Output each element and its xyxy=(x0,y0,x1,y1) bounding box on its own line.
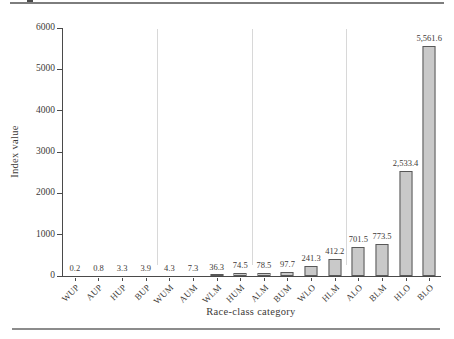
bar-wlm xyxy=(210,274,223,276)
category-label: WUP xyxy=(60,283,81,304)
x-axis-tick xyxy=(287,278,288,281)
bar-slot-wum: 4.3WUM xyxy=(158,28,182,276)
x-axis-tick xyxy=(240,278,241,281)
bar-slot-wlo: 241.3WLO xyxy=(299,28,323,276)
x-axis-tick xyxy=(146,278,147,281)
category-label: WLO xyxy=(296,283,317,304)
bar-slot-bum: 97.7BUM xyxy=(276,28,300,276)
x-axis-tick xyxy=(122,278,123,281)
y-axis-tick-label: 1000 xyxy=(11,230,55,240)
y-axis-tick-label: 2000 xyxy=(11,189,55,199)
y-axis-tick-label: 3000 xyxy=(11,147,55,157)
book-figure: Index value 01000200030004000500060000.2… xyxy=(0,0,454,339)
bar-slot-alo: 701.5ALO xyxy=(347,28,371,276)
bar-value-label: 74.5 xyxy=(233,261,248,270)
bar-value-label: 773.5 xyxy=(372,232,391,241)
bar-value-label: 3.3 xyxy=(117,264,128,273)
bar-hlm xyxy=(328,259,341,276)
bar-slot-wup: 0.2WUP xyxy=(63,28,87,276)
bar-bum xyxy=(281,272,294,276)
category-label: WUM xyxy=(153,283,176,306)
x-axis-tick xyxy=(264,278,265,281)
bar-alm xyxy=(257,273,270,276)
bar-slot-hum: 74.5HUM xyxy=(228,28,252,276)
category-label: HUM xyxy=(225,283,247,305)
bar-slot-aup: 0.8AUP xyxy=(87,28,111,276)
x-axis-tick xyxy=(382,278,383,281)
bar-slots: 0.2WUP0.8AUP3.3HUP3.9BUP4.3WUM7.3AUM36.3… xyxy=(63,28,441,276)
cropped-text-fragment xyxy=(27,0,33,2)
bar-value-label: 412.2 xyxy=(325,247,344,256)
bar-value-label: 701.5 xyxy=(349,235,368,244)
bar-value-label: 0.2 xyxy=(70,264,81,273)
bar-value-label: 97.7 xyxy=(280,260,295,269)
x-axis-title: Race-class category xyxy=(62,306,440,317)
bar-slot-aum: 7.3AUM xyxy=(181,28,205,276)
bar-blm xyxy=(375,244,388,276)
y-axis-tick-label: 5000 xyxy=(11,65,55,75)
x-axis-tick xyxy=(406,278,407,281)
bar-value-label: 5,561.6 xyxy=(416,34,442,43)
bar-hlo xyxy=(399,171,412,276)
bar-slot-hlo: 2,533.4HLO xyxy=(394,28,418,276)
bar-wlo xyxy=(305,266,318,276)
category-label: BLO xyxy=(416,283,436,303)
bar-value-label: 241.3 xyxy=(302,254,321,263)
category-label: WLM xyxy=(201,283,223,305)
category-label: HUP xyxy=(109,283,129,303)
category-label: BUM xyxy=(273,283,294,304)
x-axis-tick xyxy=(358,278,359,281)
x-axis-tick xyxy=(311,278,312,281)
bar-slot-blo: 5,561.6BLO xyxy=(417,28,441,276)
bar-slot-bup: 3.9BUP xyxy=(134,28,158,276)
x-axis-tick xyxy=(193,278,194,281)
bar-slot-alm: 78.5ALM xyxy=(252,28,276,276)
bar-value-label: 7.3 xyxy=(188,264,199,273)
bar-alo xyxy=(352,247,365,276)
bar-value-label: 4.3 xyxy=(164,264,175,273)
category-label: BLM xyxy=(368,283,389,304)
x-axis-tick xyxy=(169,278,170,281)
x-axis-tick xyxy=(429,278,430,281)
x-axis-tick xyxy=(98,278,99,281)
bar-slot-wlm: 36.3WLM xyxy=(205,28,229,276)
bar-slot-hlm: 412.2HLM xyxy=(323,28,347,276)
category-label: BUP xyxy=(133,283,152,302)
bar-slot-blm: 773.5BLM xyxy=(370,28,394,276)
y-axis-tick-label: 6000 xyxy=(11,23,55,33)
category-label: ALO xyxy=(345,283,365,303)
bar-value-label: 78.5 xyxy=(256,261,271,270)
category-label: AUP xyxy=(85,283,105,303)
bar-value-label: 2,533.4 xyxy=(393,159,419,168)
bar-hum xyxy=(234,273,247,276)
x-axis-tick xyxy=(75,278,76,281)
y-axis-tick-label: 0 xyxy=(11,271,55,281)
bar-blo xyxy=(423,46,436,276)
bar-value-label: 3.9 xyxy=(140,264,151,273)
category-label: ALM xyxy=(249,283,270,304)
category-label: HLO xyxy=(392,283,412,303)
plot-area: 01000200030004000500060000.2WUP0.8AUP3.3… xyxy=(62,28,441,277)
bar-slot-hup: 3.3HUP xyxy=(110,28,134,276)
top-rule xyxy=(10,2,444,4)
bottom-rule xyxy=(12,328,440,330)
bar-value-label: 36.3 xyxy=(209,263,224,272)
x-axis-tick xyxy=(217,278,218,281)
y-axis-tick-label: 4000 xyxy=(11,106,55,116)
x-axis-tick xyxy=(335,278,336,281)
category-label: HLM xyxy=(320,283,341,304)
bar-value-label: 0.8 xyxy=(93,264,104,273)
category-label: AUM xyxy=(178,283,200,305)
